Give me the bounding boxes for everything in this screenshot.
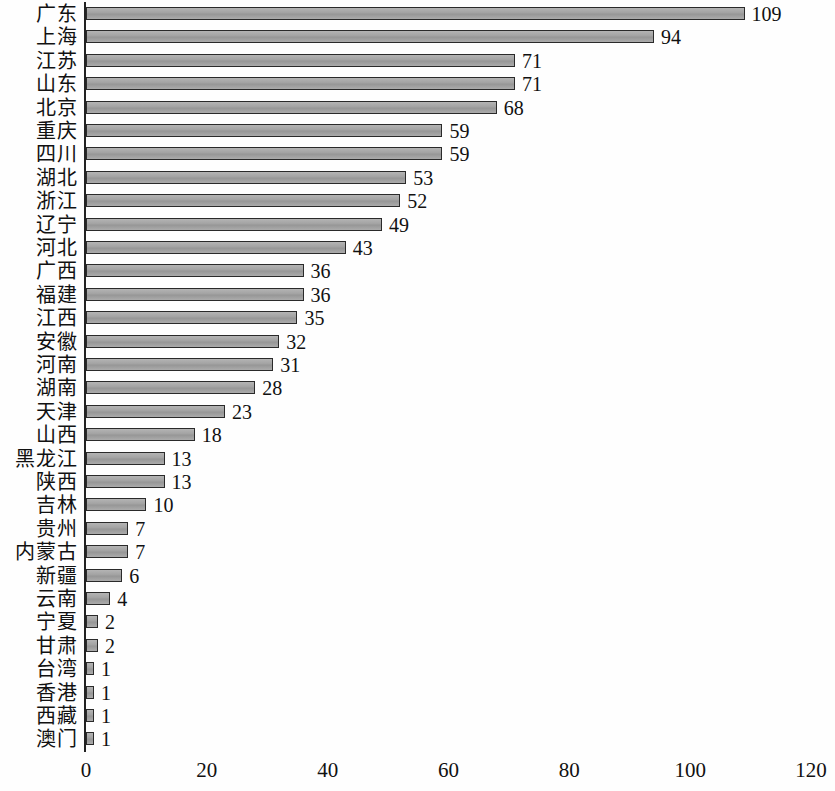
bar-value-label: 1 [101,658,111,680]
bar-row: 重庆59 [0,119,835,143]
bar-row: 湖北53 [0,166,835,190]
bar-value-label: 59 [449,120,469,142]
bar [86,7,745,20]
bar [86,381,255,394]
category-label: 山东 [36,72,78,96]
bar-row: 香港1 [0,681,835,705]
bar-value-label: 94 [661,26,681,48]
bar [86,335,279,348]
x-tick-label: 80 [559,758,580,782]
bar-value-label: 32 [286,331,306,353]
bar-row: 云南4 [0,587,835,611]
bar-value-label: 43 [353,237,373,259]
category-label: 安徽 [36,330,78,354]
bar-value-label: 52 [407,190,427,212]
bar [86,428,195,441]
category-label: 澳门 [36,727,78,751]
bar-value-label: 7 [135,541,145,563]
bar [86,288,304,301]
bar-row: 天津23 [0,400,835,424]
category-label: 辽宁 [36,213,78,237]
x-tick-label: 120 [795,758,827,782]
category-label: 内蒙古 [15,540,78,564]
x-tick-label: 20 [196,758,217,782]
category-label: 重庆 [36,119,78,143]
bar [86,218,382,231]
bar-value-label: 31 [280,354,300,376]
bar-value-label: 6 [129,565,139,587]
bar-value-label: 7 [135,518,145,540]
bar-value-label: 18 [202,424,222,446]
bar-row: 内蒙古7 [0,540,835,564]
bar-value-label: 1 [101,705,111,727]
bar [86,405,225,418]
bar [86,522,128,535]
bar [86,194,400,207]
bar-row: 辽宁49 [0,213,835,237]
category-label: 香港 [36,681,78,705]
bar-value-label: 53 [413,167,433,189]
bar-value-label: 13 [172,448,192,470]
category-label: 江西 [36,306,78,330]
bar [86,171,406,184]
bar-value-label: 35 [304,307,324,329]
category-label: 广西 [36,259,78,283]
category-label: 台湾 [36,657,78,681]
bar-row: 江西35 [0,306,835,330]
category-label: 浙江 [36,189,78,213]
bar-row: 河南31 [0,353,835,377]
bar [86,498,146,511]
bar [86,662,94,675]
bar [86,639,98,652]
x-tick-label: 40 [317,758,338,782]
bar-row: 安徽32 [0,330,835,354]
bar-row: 台湾1 [0,657,835,681]
category-label: 河北 [36,236,78,260]
category-label: 福建 [36,283,78,307]
bar-row: 广东109 [0,2,835,26]
x-tick-label: 0 [81,758,92,782]
bar-value-label: 28 [262,377,282,399]
bar-chart: 广东109上海94江苏71山东71北京68重庆59四川59湖北53浙江52辽宁4… [0,0,835,791]
bar [86,452,165,465]
category-label: 山西 [36,423,78,447]
bar-row: 福建36 [0,283,835,307]
category-label: 云南 [36,587,78,611]
bar-row: 甘肃2 [0,634,835,658]
x-tick-label: 60 [438,758,459,782]
bar-row: 山西18 [0,423,835,447]
bar-row: 江苏71 [0,49,835,73]
category-label: 广东 [36,2,78,26]
bar-value-label: 10 [153,494,173,516]
bar [86,147,442,160]
bar [86,124,442,137]
bar-row: 西藏1 [0,704,835,728]
bar [86,615,98,628]
bar [86,264,304,277]
bar-value-label: 49 [389,214,409,236]
bar-value-label: 36 [311,284,331,306]
category-label: 天津 [36,400,78,424]
bar-row: 宁夏2 [0,610,835,634]
bar-row: 上海94 [0,25,835,49]
bar-value-label: 1 [101,682,111,704]
category-label: 湖北 [36,166,78,190]
category-label: 甘肃 [36,634,78,658]
bar [86,732,94,745]
bar [86,592,110,605]
bar [86,475,165,488]
bar-value-label: 4 [117,588,127,610]
bar-row: 广西36 [0,259,835,283]
bar-value-label: 68 [504,97,524,119]
category-label: 江苏 [36,49,78,73]
category-label: 黑龙江 [15,447,78,471]
bar-value-label: 2 [105,635,115,657]
plot-area: 广东109上海94江苏71山东71北京68重庆59四川59湖北53浙江52辽宁4… [0,0,835,791]
bar-row: 河北43 [0,236,835,260]
bar-value-label: 109 [752,3,782,25]
bar-row: 新疆6 [0,564,835,588]
bar [86,358,273,371]
category-label: 新疆 [36,564,78,588]
bar-row: 贵州7 [0,517,835,541]
bar [86,709,94,722]
